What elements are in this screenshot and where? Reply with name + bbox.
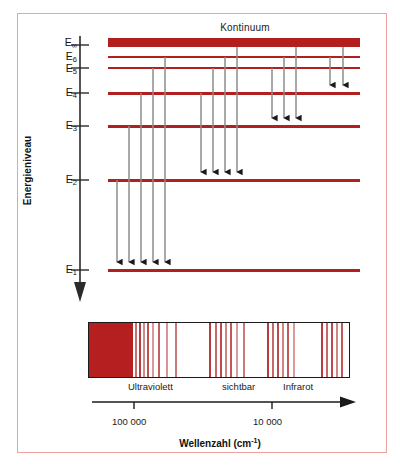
spectral-line bbox=[230, 323, 232, 377]
spectral-line bbox=[336, 323, 338, 377]
spectral-line bbox=[215, 323, 217, 377]
spectral-line bbox=[236, 323, 238, 377]
spectrum-continuum-block bbox=[89, 323, 133, 377]
spectral-line bbox=[135, 323, 137, 377]
spectral-line bbox=[282, 323, 284, 377]
wavenumber-caption-tail: ) bbox=[257, 438, 260, 449]
wavenumber-caption-main: Wellenzahl (cm bbox=[179, 438, 251, 449]
spectral-line bbox=[147, 323, 149, 377]
spectral-line bbox=[139, 323, 141, 377]
xtick-label-10000: 10 000 bbox=[253, 416, 282, 427]
spectral-line bbox=[331, 323, 333, 377]
spectral-line bbox=[243, 323, 245, 377]
spectral-line bbox=[272, 323, 274, 377]
spectral-line bbox=[225, 323, 227, 377]
spectral-line bbox=[321, 323, 323, 377]
spectral-line bbox=[209, 323, 211, 377]
region-label-infrarot: Infrarot bbox=[283, 381, 313, 392]
xtick-label-100000: 100 000 bbox=[112, 416, 146, 427]
region-label-sichtbar: sichtbar bbox=[222, 381, 255, 392]
spectral-line bbox=[220, 323, 222, 377]
spectral-line bbox=[158, 323, 160, 377]
wavenumber-axis-caption: Wellenzahl (cm-1) bbox=[100, 437, 340, 449]
spectral-line bbox=[166, 323, 168, 377]
spectral-line bbox=[326, 323, 328, 377]
spectral-line bbox=[341, 323, 343, 377]
spectral-line bbox=[293, 323, 295, 377]
energy-level-diagram-figure: Kontinuum Energieniveau E∞ E6 E5 E4 E3 E… bbox=[0, 0, 400, 466]
transition-arrows bbox=[0, 0, 400, 300]
wavenumber-axis bbox=[0, 394, 400, 416]
spectral-line bbox=[277, 323, 279, 377]
spectral-line bbox=[143, 323, 145, 377]
spectral-line bbox=[267, 323, 269, 377]
spectral-line bbox=[152, 323, 154, 377]
spectral-line bbox=[287, 323, 289, 377]
region-label-ultraviolett: Ultraviolett bbox=[128, 381, 173, 392]
spectrum-panel bbox=[88, 322, 350, 378]
spectral-line bbox=[175, 323, 177, 377]
